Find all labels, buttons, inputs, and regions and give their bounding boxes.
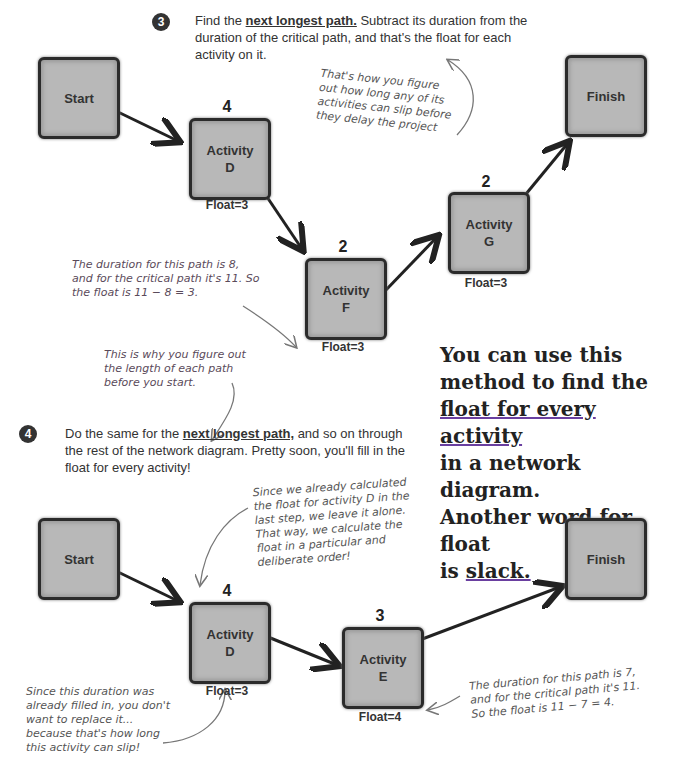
node-label: Activity xyxy=(207,142,254,159)
float-d-bottom: Float=3 xyxy=(182,684,272,698)
float-value: Float=3 xyxy=(465,276,507,290)
node-label: G xyxy=(484,233,494,250)
step-4-text-before: Do the same for the xyxy=(65,426,183,441)
node-activity-e-bottom: ActivityE xyxy=(342,627,424,709)
step-3-emphasis: next longest path. xyxy=(246,13,357,28)
node-activity-g-top: ActivityG xyxy=(448,192,530,274)
float-value: Float=3 xyxy=(206,198,248,212)
node-activity-f-top: ActivityF xyxy=(305,258,387,340)
node-activity-d-top: ActivityD xyxy=(189,118,271,200)
annotation-duration-top: The duration for this path is 8, and for… xyxy=(72,258,262,300)
callout-text: is xyxy=(440,559,466,583)
step-3-number: 3 xyxy=(158,15,165,29)
callout-line: in a network diagram. xyxy=(440,450,678,504)
duration-d-top: 4 xyxy=(189,98,265,116)
node-start-bottom: Start xyxy=(38,518,120,600)
node-label: Start xyxy=(64,90,94,107)
node-label: F xyxy=(342,299,350,316)
node-finish-top: Finish xyxy=(565,55,647,137)
duration-g-top: 2 xyxy=(448,173,524,191)
node-activity-d-bottom: ActivityD xyxy=(189,602,271,684)
node-label: Activity xyxy=(207,626,254,643)
annotation-already-calculated: Since we already calculated the float fo… xyxy=(252,474,432,570)
step-4-emphasis: next longest path, xyxy=(183,426,294,441)
step-4-badge: 4 xyxy=(19,425,37,443)
callout-line: method to find the xyxy=(440,369,678,396)
node-label: D xyxy=(225,643,234,660)
node-label: Activity xyxy=(466,216,513,233)
step-3-text: Find the next longest path. Subtract its… xyxy=(195,12,540,63)
node-label: Activity xyxy=(360,651,407,668)
annotation-already-filled: Since this duration was already filled i… xyxy=(26,685,176,755)
callout-line: You can use this xyxy=(440,342,678,369)
node-label: D xyxy=(225,159,234,176)
duration-e-bottom: 3 xyxy=(342,607,418,625)
node-finish-bottom: Finish xyxy=(565,518,647,600)
step-3-badge: 3 xyxy=(152,13,170,31)
float-value: Float=3 xyxy=(322,340,364,354)
step-4-text: Do the same for the next longest path, a… xyxy=(65,425,405,476)
float-e-bottom: Float=4 xyxy=(335,710,425,724)
slack-term: slack. xyxy=(466,559,531,583)
duration-d-bottom: 4 xyxy=(189,582,265,600)
callout-underlined: float for every activity xyxy=(440,397,596,448)
annotation-why: This is why you figure out the length of… xyxy=(104,348,249,390)
node-label: Activity xyxy=(323,282,370,299)
node-label: Finish xyxy=(587,551,625,568)
float-f-top: Float=3 xyxy=(298,340,388,354)
node-label: Finish xyxy=(587,88,625,105)
float-value: Float=4 xyxy=(359,710,401,724)
float-g-top: Float=3 xyxy=(441,276,531,290)
step-3-text-before: Find the xyxy=(195,13,246,28)
float-value: Float=3 xyxy=(206,684,248,698)
node-start-top: Start xyxy=(38,57,120,139)
duration-f-top: 2 xyxy=(305,238,381,256)
callout-line: float for every activity xyxy=(440,396,678,450)
node-label: E xyxy=(379,668,388,685)
step-4-number: 4 xyxy=(25,427,32,441)
float-d-top: Float=3 xyxy=(182,198,272,212)
node-label: Start xyxy=(64,551,94,568)
